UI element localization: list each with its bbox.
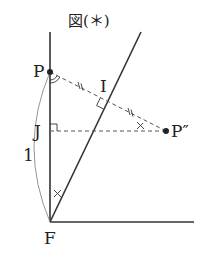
label-i: I xyxy=(100,76,107,96)
cross-mark-pdoubleprime xyxy=(137,122,144,129)
right-angle-marker-j xyxy=(50,124,57,131)
label-pdoubleprime: P″ xyxy=(171,121,189,141)
label-length: 1 xyxy=(23,145,34,165)
slanted-line xyxy=(50,32,141,222)
geometry-diagram: 図(＊) P I J P″ 1 F xyxy=(0,0,212,267)
label-p: P xyxy=(33,61,44,81)
figure-title: 図(＊) xyxy=(68,12,110,30)
angle-mark-p-inner xyxy=(50,76,57,80)
dashed-line-p-to-pdoubleprime xyxy=(50,72,166,131)
right-angle-marker-i xyxy=(97,98,104,109)
length-arc xyxy=(34,72,50,222)
point-p xyxy=(47,69,53,75)
tick-marks-ipdoubleprime xyxy=(128,108,133,117)
tick-marks-pi xyxy=(78,82,83,91)
label-j: J xyxy=(32,121,41,141)
cross-mark-f xyxy=(54,190,61,197)
point-pdoubleprime xyxy=(163,128,169,134)
label-f: F xyxy=(44,228,56,248)
